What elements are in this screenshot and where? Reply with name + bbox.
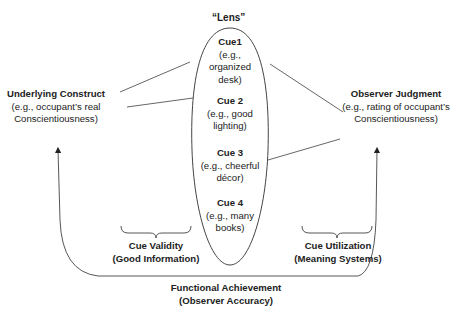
- cue1-label: Cue1 (e.g., organized desk): [190, 36, 270, 86]
- functional-achievement-label: Functional Achievement (Observer Accurac…: [156, 282, 296, 307]
- cue-utilization-label: Cue Utilization (Meaning Systems): [282, 240, 394, 265]
- construct-to-cue1-line: [120, 62, 190, 92]
- cue-validity-brace: [121, 226, 191, 238]
- cue-validity-label: Cue Validity (Good Information): [100, 240, 212, 265]
- cue3-label: Cue 3 (e.g., cheerful décor): [190, 147, 270, 185]
- construct-title: Underlying Construct: [0, 88, 112, 101]
- achievement-curve: [58, 150, 98, 276]
- cue2-label: Cue 2 (e.g., good lighting): [190, 95, 270, 133]
- cue3-name: Cue 3: [190, 147, 270, 160]
- cue4-name: Cue 4: [190, 197, 270, 210]
- cue1-name: Cue1: [190, 36, 270, 49]
- lens-title: “Lens”: [212, 12, 245, 23]
- underlying-construct-label: Underlying Construct (e.g., occupant’s r…: [0, 88, 112, 126]
- cue1-to-judgment-line: [270, 64, 343, 112]
- cue3-to-judgment-line: [268, 139, 340, 160]
- cue4-label: Cue 4 (e.g., many books): [190, 197, 270, 235]
- observer-judgment-label: Observer Judgment (e.g., rating of occup…: [340, 88, 452, 126]
- judgment-title: Observer Judgment: [340, 88, 452, 101]
- cue-utilization-brace: [302, 226, 372, 238]
- construct-to-cue2-line: [127, 98, 193, 107]
- cue2-name: Cue 2: [190, 95, 270, 108]
